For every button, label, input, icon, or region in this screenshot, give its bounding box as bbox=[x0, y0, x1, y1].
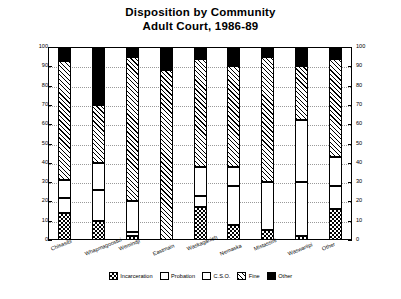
y-tick-label-right: 80 bbox=[356, 83, 378, 89]
bar-segment-c-s-o- bbox=[58, 180, 71, 197]
y-tick-mark-left bbox=[48, 105, 52, 106]
bar-segment-other bbox=[126, 47, 139, 57]
bar-segment-other bbox=[160, 47, 173, 70]
y-tick-label-left: 10 bbox=[26, 218, 48, 224]
chart-title-block: Disposition by Community Adult Court, 19… bbox=[0, 6, 401, 33]
y-tick-mark-left bbox=[48, 163, 52, 164]
legend-item-incarceration[interactable]: Incarceration bbox=[109, 272, 153, 280]
bar-segment-fine bbox=[261, 57, 274, 182]
bar-segment-incarceration bbox=[58, 213, 71, 240]
legend-item-c-s-o-[interactable]: C.S.O. bbox=[202, 272, 230, 280]
chart-subtitle: Adult Court, 1986-89 bbox=[0, 20, 401, 34]
x-tick-label: Other bbox=[321, 241, 336, 252]
y-tick-label-left: 30 bbox=[26, 179, 48, 185]
bar-segment-c-s-o- bbox=[295, 120, 308, 182]
y-tick-mark-left bbox=[48, 240, 52, 241]
chart-legend: IncarcerationProbationC.S.O.FineOther bbox=[0, 272, 401, 280]
bar-segment-probation bbox=[227, 186, 240, 225]
y-tick-label-left: 70 bbox=[26, 102, 48, 108]
bar-segment-other bbox=[58, 47, 71, 61]
y-tick-mark-right bbox=[348, 47, 352, 48]
y-tick-mark-right bbox=[348, 221, 352, 222]
y-tick-label-left: 0 bbox=[26, 237, 48, 243]
bar-eastmain[interactable] bbox=[160, 47, 173, 240]
bar-segment-other bbox=[261, 47, 274, 57]
y-tick-label-left: 80 bbox=[26, 83, 48, 89]
bar-segment-other bbox=[295, 47, 308, 66]
bar-segment-incarceration bbox=[194, 207, 207, 240]
bar-whapmagoostui[interactable] bbox=[92, 47, 105, 240]
bar-segment-c-s-o- bbox=[227, 167, 240, 186]
legend-label: Fine bbox=[249, 273, 260, 279]
bar-segment-c-s-o- bbox=[194, 167, 207, 196]
y-tick-label-right: 0 bbox=[356, 237, 378, 243]
y-tick-mark-right bbox=[348, 144, 352, 145]
x-tick-label: Waswanipi bbox=[287, 241, 313, 256]
bar-waskaganish[interactable] bbox=[194, 47, 207, 240]
y-tick-label-left: 40 bbox=[26, 160, 48, 166]
bar-wemindji[interactable] bbox=[126, 47, 139, 240]
y-tick-label-left: 100 bbox=[26, 44, 48, 50]
bar-segment-probation bbox=[295, 182, 308, 236]
bar-segment-c-s-o- bbox=[126, 201, 139, 232]
bar-waswanipi[interactable] bbox=[295, 47, 308, 240]
y-tick-mark-left bbox=[48, 66, 52, 67]
y-tick-label-right: 100 bbox=[356, 44, 378, 50]
bar-segment-other bbox=[194, 47, 207, 59]
x-tick-label: Eastmain bbox=[152, 243, 175, 257]
legend-swatch-icon bbox=[237, 272, 246, 280]
y-tick-mark-left bbox=[48, 201, 52, 202]
bar-segment-fine bbox=[295, 66, 308, 120]
bar-segment-probation bbox=[194, 196, 207, 208]
y-tick-label-left: 50 bbox=[26, 141, 48, 147]
y-tick-label-right: 30 bbox=[356, 179, 378, 185]
legend-swatch-icon bbox=[267, 272, 276, 280]
legend-item-probation[interactable]: Probation bbox=[160, 272, 195, 280]
bar-segment-other bbox=[329, 47, 342, 59]
legend-swatch-icon bbox=[160, 272, 169, 280]
legend-item-fine[interactable]: Fine bbox=[237, 272, 259, 280]
y-tick-label-left: 60 bbox=[26, 121, 48, 127]
y-tick-label-right: 60 bbox=[356, 121, 378, 127]
y-tick-mark-right bbox=[348, 66, 352, 67]
bar-mistassini[interactable] bbox=[261, 47, 274, 240]
bar-segment-c-s-o- bbox=[92, 163, 105, 190]
legend-swatch-icon bbox=[109, 272, 118, 280]
bar-segment-fine bbox=[227, 66, 240, 166]
x-axis-labels: ChisasibiWhapmagoostuiWemindjiEastmainWa… bbox=[0, 242, 401, 270]
chart-title: Disposition by Community bbox=[0, 6, 401, 20]
y-tick-mark-right bbox=[348, 201, 352, 202]
bar-chisasibi[interactable] bbox=[58, 47, 71, 240]
y-tick-label-right: 10 bbox=[356, 218, 378, 224]
bar-segment-other bbox=[227, 47, 240, 66]
y-tick-label-left: 90 bbox=[26, 63, 48, 69]
bar-segment-fine bbox=[194, 59, 207, 167]
y-tick-mark-right bbox=[348, 163, 352, 164]
y-tick-mark-left bbox=[48, 47, 52, 48]
bar-segment-c-s-o- bbox=[329, 157, 342, 186]
bar-segment-incarceration bbox=[329, 209, 342, 240]
legend-label: Other bbox=[278, 273, 292, 279]
y-tick-mark-left bbox=[48, 86, 52, 87]
y-tick-label-left: 20 bbox=[26, 198, 48, 204]
bar-segment-fine bbox=[92, 105, 105, 163]
bars-layer bbox=[48, 47, 352, 240]
y-tick-mark-right bbox=[348, 105, 352, 106]
bar-other[interactable] bbox=[329, 47, 342, 240]
y-tick-mark-right bbox=[348, 182, 352, 183]
y-tick-label-right: 20 bbox=[356, 198, 378, 204]
bar-segment-fine bbox=[329, 59, 342, 157]
bar-segment-other bbox=[92, 47, 105, 105]
bar-segment-incarceration bbox=[295, 236, 308, 240]
bar-segment-probation bbox=[58, 198, 71, 213]
bar-segment-probation bbox=[261, 182, 274, 230]
y-tick-mark-left bbox=[48, 144, 52, 145]
x-tick-label: Nemaska bbox=[219, 242, 242, 256]
bar-nemaska[interactable] bbox=[227, 47, 240, 240]
bar-segment-fine bbox=[58, 61, 71, 181]
legend-item-other[interactable]: Other bbox=[267, 272, 293, 280]
bar-segment-incarceration bbox=[92, 221, 105, 240]
bar-segment-fine bbox=[160, 70, 173, 240]
y-tick-mark-left bbox=[48, 182, 52, 183]
y-tick-label-right: 90 bbox=[356, 63, 378, 69]
